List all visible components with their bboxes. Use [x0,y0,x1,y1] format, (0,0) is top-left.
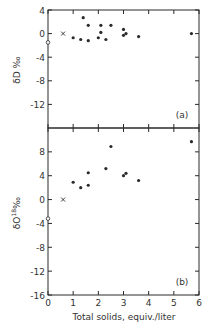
y-tick-label: -4 [36,53,45,63]
x-tick-label: 5 [171,298,177,308]
data-point [82,16,85,19]
data-point [137,179,140,182]
y-tick-label: -8 [36,243,45,253]
panel-tag-a: (a) [176,110,189,120]
data-point [124,172,127,175]
data-point [97,36,100,39]
data-point-open [46,41,50,45]
data-point [99,31,102,34]
data-point [190,32,193,35]
data-point [104,38,107,41]
x-tick-label: 2 [95,298,101,308]
y-tick-label: -16 [30,291,45,301]
panel-a: 40-4-8-12 [30,6,199,129]
data-point [79,38,82,41]
data-point [124,32,127,35]
y-tick-label: 8 [39,147,45,157]
data-point-open [46,217,50,221]
x-tick-label: 0 [45,298,51,308]
data-point-x [61,198,65,202]
data-point [99,24,102,27]
x-tick-label: 4 [146,298,152,308]
x-tick-label: 6 [196,298,202,308]
data-point [190,140,193,143]
data-point [72,36,75,39]
y-tick-label: 0 [39,195,45,205]
panel-b: 840-4-8-12-16 [30,128,199,301]
x-axis-label: Total solids, equiv./liter [72,312,176,322]
data-point [109,145,112,148]
y-axis-label-b: δO18‰ [10,197,22,229]
data-point [72,181,75,184]
data-point [79,186,82,189]
data-point [87,24,90,27]
data-point [109,24,112,27]
data-point [122,174,125,177]
scatter-chart: 40-4-8-12840-4-8-12-160123456(a)(b)δD ‰δ… [0,0,208,331]
y-tick-label: -12 [30,100,45,110]
data-point [137,35,140,38]
y-tick-label: 0 [39,29,45,39]
y-tick-label: -4 [36,219,45,229]
y-tick-label: 4 [39,171,45,181]
data-point [104,167,107,170]
x-tick-label: 1 [70,298,76,308]
data-point [87,184,90,187]
data-point [87,171,90,174]
data-point-x [61,32,65,36]
y-tick-label: 4 [39,6,45,16]
y-tick-label: -8 [36,76,45,86]
data-point [87,39,90,42]
y-tick-label: -12 [30,267,45,277]
data-point [122,28,125,31]
x-tick-label: 3 [121,298,127,308]
plot-frame [48,128,199,295]
y-axis-label-a: δD ‰ [12,56,22,83]
panel-tag-b: (b) [176,277,189,287]
